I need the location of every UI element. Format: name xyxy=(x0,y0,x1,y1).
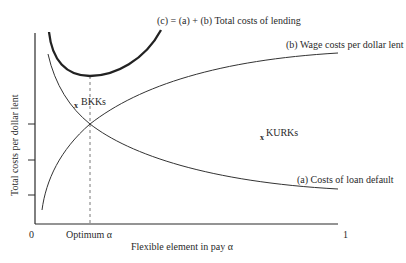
cost-diagram: (c) = (a) + (b) Total costs of lending (… xyxy=(0,0,406,263)
bkks-label: BKKs xyxy=(81,96,106,107)
kurks-label: KURKs xyxy=(266,127,298,138)
curve-total-costs xyxy=(49,30,161,76)
curve-b-label: (b) Wage costs per dollar lent xyxy=(286,39,404,51)
curve-a-label: (a) Costs of loan default xyxy=(297,174,394,186)
x-end-label: 1 xyxy=(343,229,348,240)
kurks-marker: x xyxy=(260,133,264,142)
x-origin-label: 0 xyxy=(29,229,34,240)
x-axis-title: Flexible element in pay α xyxy=(131,241,234,252)
x-optimum-label: Optimum α xyxy=(66,229,113,240)
curve-c-label: (c) = (a) + (b) Total costs of lending xyxy=(157,15,301,27)
y-axis-title: Total costs per dollar lent xyxy=(9,94,20,196)
curve-loan-default xyxy=(48,54,338,189)
bkks-marker: x xyxy=(74,101,78,110)
